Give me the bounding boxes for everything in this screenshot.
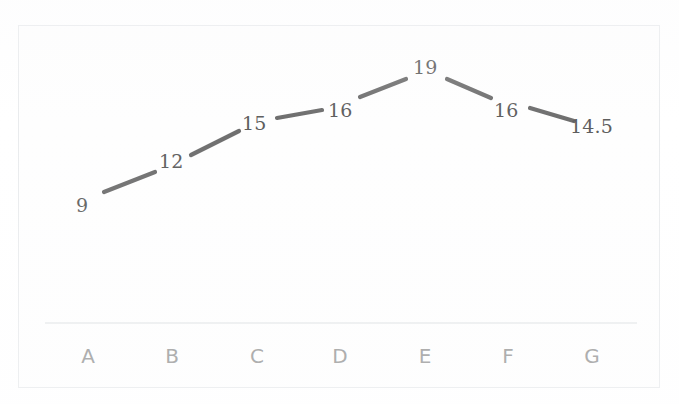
category-label-a: A	[81, 346, 95, 366]
data-label-g: 14.5	[570, 117, 613, 136]
category-label-c: C	[250, 346, 264, 366]
line-segment-b-c	[191, 131, 239, 155]
category-label-d: D	[332, 346, 347, 366]
category-label-b: B	[165, 346, 179, 366]
line-segment-f-g	[530, 108, 574, 121]
data-label-a: 9	[76, 196, 88, 215]
line-segment-c-d	[277, 110, 322, 118]
line-segment-e-f	[447, 79, 491, 98]
data-label-c: 15	[242, 114, 267, 133]
line-segment-d-e	[360, 79, 406, 97]
category-label-e: E	[419, 346, 432, 366]
data-label-f: 16	[494, 101, 519, 120]
data-label-e: 19	[413, 58, 438, 77]
category-label-f: F	[502, 346, 514, 366]
data-label-d: 16	[328, 101, 353, 120]
data-label-b: 12	[159, 152, 184, 171]
data-line-series	[104, 79, 574, 192]
line-segment-a-b	[104, 172, 155, 192]
line-chart-figure: 9 12 15 16 19 16 14.5 A B C D E F G	[0, 0, 679, 404]
category-label-g: G	[584, 346, 600, 366]
